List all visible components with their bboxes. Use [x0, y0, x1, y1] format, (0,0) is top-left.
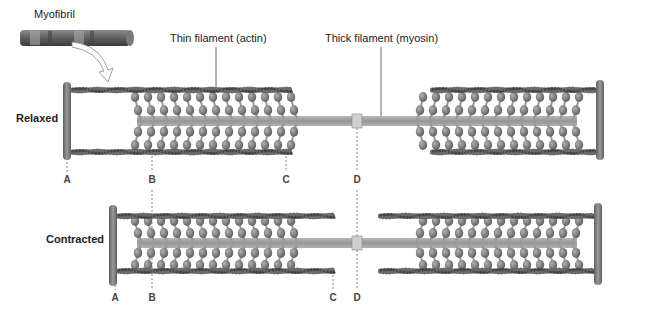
myosin-head [209, 92, 217, 102]
myosin-head [562, 92, 570, 102]
myosin-head [481, 248, 489, 258]
myosin-head [494, 228, 502, 238]
myosin-head [170, 140, 178, 150]
myosin-head [212, 127, 220, 137]
myosin-head [261, 92, 269, 102]
myosin-head [533, 105, 541, 115]
myosin-head [533, 228, 541, 238]
myosin-head [510, 140, 518, 150]
myosin-head [507, 248, 515, 258]
myofibril-illustration [20, 30, 134, 82]
myofibril-label: Myofibril [34, 8, 75, 20]
myosin-head [251, 127, 259, 137]
myosin-head [468, 105, 476, 115]
myosin-head [134, 127, 142, 137]
myosin-head [533, 248, 541, 258]
myosin-head [170, 92, 178, 102]
contracted-marker-b: B [148, 292, 155, 303]
myosin-head [264, 228, 272, 238]
myosin-head [186, 228, 194, 238]
myosin-head [533, 127, 541, 137]
myosin-head [147, 105, 155, 115]
myosin-head [520, 105, 528, 115]
myosin-head [147, 127, 155, 137]
myosin-head [222, 92, 230, 102]
myosin-head [559, 248, 567, 258]
myosin-head [277, 248, 285, 258]
myosin-head [157, 92, 165, 102]
myosin-head [199, 228, 207, 238]
myosin-head [497, 140, 505, 150]
thin-filament [430, 149, 598, 156]
myosin-head [458, 92, 466, 102]
myosin-head [186, 127, 194, 137]
myosin-head [520, 127, 528, 137]
myosin-head [225, 105, 233, 115]
myosin-head [536, 140, 544, 150]
myosin-head [468, 248, 476, 258]
myosin-head [287, 92, 295, 102]
myosin-head [445, 92, 453, 102]
myosin-head [572, 127, 580, 137]
contracted-marker-c: C [329, 292, 336, 303]
myosin-head [144, 92, 152, 102]
myosin-head [442, 105, 450, 115]
thin-filament [116, 213, 336, 220]
myosin-head [238, 127, 246, 137]
myosin-head [235, 92, 243, 102]
myosin-head [562, 140, 570, 150]
sarcomere-diagram [0, 0, 664, 321]
myosin-head [484, 92, 492, 102]
m-line [352, 114, 362, 128]
myosin-head [559, 127, 567, 137]
myosin-head [157, 140, 165, 150]
relaxed-sarcomere [63, 80, 604, 172]
myosin-head [134, 248, 142, 258]
myosin-head [429, 105, 437, 115]
myosin-head [173, 105, 181, 115]
myosin-head [572, 248, 580, 258]
myosin-head [481, 105, 489, 115]
contracted-sarcomere [109, 190, 602, 290]
myosin-head [225, 248, 233, 258]
myosin-head [196, 92, 204, 102]
myosin-head [222, 140, 230, 150]
myosin-head [523, 140, 531, 150]
thin-filament [430, 87, 598, 94]
thick-filament-label: Thick filament (myosin) [325, 32, 438, 44]
myosin-head [494, 248, 502, 258]
myosin-head [468, 127, 476, 137]
myosin-head [507, 127, 515, 137]
myosin-head [287, 140, 295, 150]
myosin-head [131, 140, 139, 150]
myosin-head [235, 140, 243, 150]
myosin-head [442, 228, 450, 238]
myosin-head [212, 228, 220, 238]
myosin-head [432, 92, 440, 102]
contracted-label: Contracted [46, 233, 104, 245]
myosin-head [290, 248, 298, 258]
myosin-head [520, 248, 528, 258]
myosin-head [458, 140, 466, 150]
relaxed-marker-b: B [148, 174, 155, 185]
myosin-head [510, 92, 518, 102]
myosin-head [134, 228, 142, 238]
myosin-head [147, 248, 155, 258]
myosin-head [290, 105, 298, 115]
contracted-marker-d: D [353, 292, 360, 303]
myosin-head [442, 127, 450, 137]
myosin-head [183, 92, 191, 102]
contracted-marker-a: A [111, 292, 118, 303]
myosin-head [429, 248, 437, 258]
myosin-head [520, 228, 528, 238]
thick-filament [131, 216, 583, 270]
myosin-head [147, 228, 155, 238]
thin-filament [70, 149, 293, 156]
myosin-head [199, 248, 207, 258]
myosin-head [196, 140, 204, 150]
myosin-head [507, 228, 515, 238]
myosin-head [225, 127, 233, 137]
z-disc [596, 80, 604, 160]
myosin-head [131, 92, 139, 102]
myosin-head [290, 228, 298, 238]
